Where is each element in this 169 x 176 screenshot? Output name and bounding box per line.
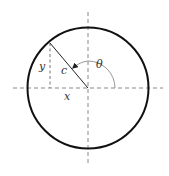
label-x: x bbox=[64, 90, 71, 103]
angle-arc-theta bbox=[74, 61, 116, 88]
circle-diagram: y c θ x bbox=[0, 0, 169, 176]
label-y: y bbox=[38, 60, 46, 73]
label-c: c bbox=[61, 64, 67, 77]
label-theta: θ bbox=[96, 58, 103, 71]
hypotenuse-c bbox=[50, 43, 88, 88]
